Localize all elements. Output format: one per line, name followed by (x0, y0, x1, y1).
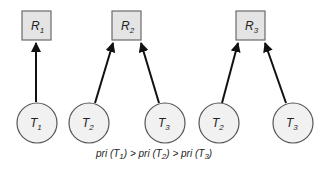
task-t1: T1 (17, 103, 57, 143)
resource-r2: R2 (112, 11, 141, 40)
edges (36, 43, 286, 103)
task-t2-group3: T2 (199, 103, 239, 143)
edge-t3-r3 (265, 43, 286, 103)
edge-t2-r2 (95, 43, 113, 103)
edge-t2-r3 (222, 43, 238, 103)
task-t3-group3: T3 (273, 103, 313, 143)
resource-r3: R3 (236, 11, 265, 40)
priority-diagram: R1 R2 R3 T1 T2 T3 T2 T3 pri (T1) > pri (… (0, 0, 329, 171)
priority-caption: pri (T1) > pri (T2) > pri (T3) (95, 148, 212, 161)
edge-t3-r2 (141, 43, 159, 103)
task-t3-group2: T3 (145, 103, 185, 143)
task-t2-group2: T2 (69, 103, 109, 143)
resource-r1: R1 (22, 11, 51, 40)
